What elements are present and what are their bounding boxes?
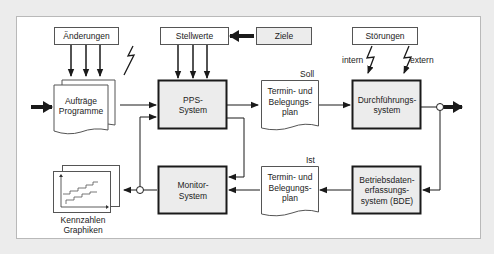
aenderungen-label: Änderungen xyxy=(54,28,119,45)
kennzahlen-chart-icon xyxy=(54,166,120,213)
intern-lightning-icon xyxy=(124,46,134,75)
soll-tag: Soll xyxy=(300,69,314,79)
bde-label: Betriebsdaten- erfassungs- system (BDE) xyxy=(353,167,421,214)
pps-system-label: PPS- System xyxy=(159,81,227,129)
intern-label: intern xyxy=(342,55,363,65)
stoerungen-label: Störungen xyxy=(352,28,418,45)
monitor-junction xyxy=(137,187,144,194)
stellwerte-label: Stellwerte xyxy=(160,28,229,45)
durchfuehrung-label: Durchführungs- system xyxy=(353,81,421,129)
auftraege-label: Aufträge Programme xyxy=(54,88,108,124)
ist-tag: Ist xyxy=(306,155,315,165)
ziele-label: Ziele xyxy=(256,28,312,45)
extern-label: extern xyxy=(410,55,434,65)
plan-ist-label: Termin- und Belegungs- plan xyxy=(261,167,319,209)
monitor-system-label: Monitor- System xyxy=(159,167,227,214)
kennzahlen-label: Kennzahlen Graphiken xyxy=(46,214,120,236)
plan-soll-label: Termin- und Belegungs- plan xyxy=(261,81,319,123)
stellwerte-arrows xyxy=(178,45,207,78)
output-junction xyxy=(437,104,444,111)
aenderungen-arrows xyxy=(71,45,100,76)
